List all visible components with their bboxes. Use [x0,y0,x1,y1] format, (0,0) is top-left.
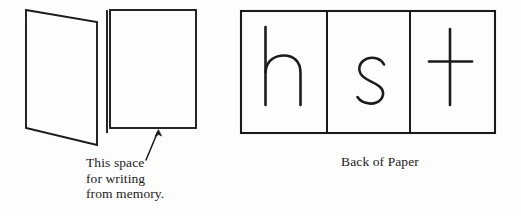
caption-line-1: This space [86,155,216,171]
writing-space-panel [110,10,196,128]
back-of-paper-box [241,11,495,133]
back-of-paper [241,11,495,133]
figure-page: This space for writing from memory. Back… [0,0,521,216]
caption-line-2: for writing [86,171,216,187]
caption-line-3: from memory. [86,186,216,202]
back-of-paper-caption: Back of Paper [310,154,450,170]
folded-flap [26,10,97,145]
folded-paper-front [26,10,196,160]
figure-canvas [0,0,521,216]
writing-space-caption: This space for writing from memory. [86,155,216,202]
